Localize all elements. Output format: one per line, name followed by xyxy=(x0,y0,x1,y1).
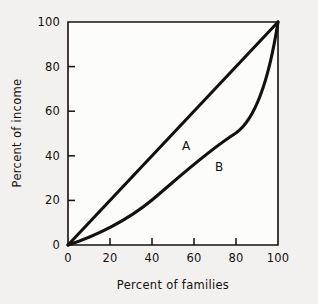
lorenz-curve-chart: 100 80 60 40 20 0 0 20 40 60 80 100 Perc… xyxy=(0,0,318,304)
curve-label-a: A xyxy=(182,139,190,153)
x-axis-title: Percent of families xyxy=(117,278,229,292)
x-tick-label-100: 100 xyxy=(267,251,290,265)
y-tick-label-20: 20 xyxy=(22,193,60,207)
x-tick-label-20: 20 xyxy=(102,251,117,265)
y-tick-label-0: 0 xyxy=(22,238,60,252)
y-axis-title: Percent of income xyxy=(10,79,24,188)
x-tick-label-60: 60 xyxy=(186,251,201,265)
x-tick-label-80: 80 xyxy=(228,251,243,265)
x-tick-label-40: 40 xyxy=(144,251,159,265)
curve-label-b: B xyxy=(215,160,223,174)
y-tick-label-60: 60 xyxy=(22,104,60,118)
y-tick-label-100: 100 xyxy=(22,15,60,29)
y-tick-label-80: 80 xyxy=(22,60,60,74)
x-tick-label-0: 0 xyxy=(64,251,72,265)
y-tick-label-40: 40 xyxy=(22,149,60,163)
